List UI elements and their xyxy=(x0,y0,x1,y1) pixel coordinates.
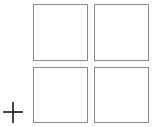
grid-tile-2[interactable] xyxy=(94,4,149,61)
grid-tile-3[interactable] xyxy=(33,67,88,123)
add-tile-button[interactable] xyxy=(2,101,24,123)
tile-grid-canvas xyxy=(0,0,154,127)
grid-tile-4[interactable] xyxy=(94,67,149,123)
grid-tile-1[interactable] xyxy=(33,4,88,61)
plus-icon xyxy=(2,101,24,123)
